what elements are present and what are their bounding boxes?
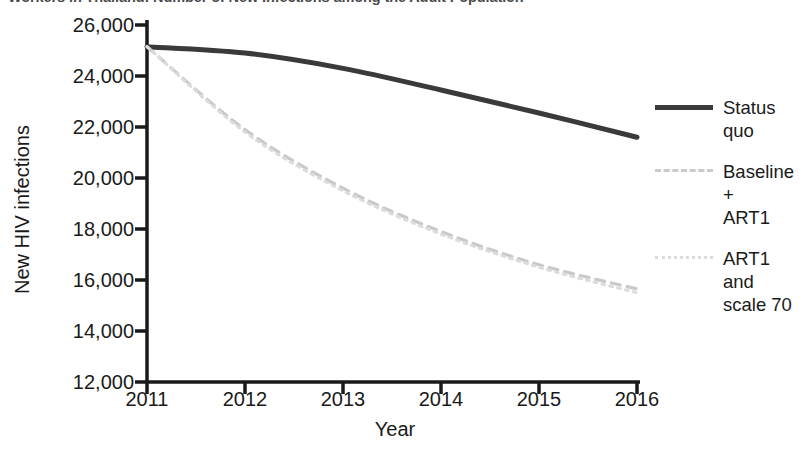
legend-entry[interactable]: ART1 andscale 70 — [655, 247, 805, 316]
series-line — [147, 47, 637, 289]
x-axis-title: Year — [150, 418, 640, 441]
y-tick-label: 20,000 — [24, 168, 134, 188]
legend-entry[interactable]: Statusquo — [655, 96, 805, 142]
x-tick-label: 2016 — [582, 388, 692, 411]
x-tick-label: 2012 — [190, 388, 300, 411]
legend-entry[interactable]: Baseline +ART1 — [655, 160, 805, 229]
legend-label: ART1 andscale 70 — [723, 247, 805, 316]
x-tick-label: 2013 — [288, 388, 398, 411]
y-axis-ticks — [135, 25, 147, 382]
legend-line-swatch-icon — [655, 105, 713, 110]
y-axis-title: New HIV infections — [11, 60, 34, 360]
chart-figure: Workers in Thailand: Number of New Infec… — [0, 0, 808, 451]
y-tick-label: 18,000 — [24, 219, 134, 239]
legend-label: Statusquo — [723, 96, 805, 142]
legend-label-line2: scale 70 — [723, 293, 805, 316]
data-series-group — [147, 47, 637, 293]
x-tick-label: 2014 — [386, 388, 496, 411]
chart-legend: StatusquoBaseline +ART1ART1 andscale 70 — [655, 96, 805, 334]
y-axis-tick-labels: 12,00014,00016,00018,00020,00022,00024,0… — [22, 0, 134, 451]
y-tick-label: 26,000 — [24, 15, 134, 35]
y-tick-label: 22,000 — [24, 117, 134, 137]
legend-label-line2: quo — [723, 119, 805, 142]
legend-label-line2: ART1 — [723, 206, 805, 229]
legend-line-swatch-icon — [655, 256, 713, 259]
x-tick-label: 2015 — [484, 388, 594, 411]
x-tick-label: 2011 — [92, 388, 202, 411]
legend-line-swatch-icon — [655, 169, 713, 172]
y-tick-label: 16,000 — [24, 270, 134, 290]
legend-label: Baseline +ART1 — [723, 160, 805, 229]
y-tick-label: 24,000 — [24, 66, 134, 86]
series-line — [147, 47, 637, 293]
y-tick-label: 14,000 — [24, 321, 134, 341]
series-line — [147, 47, 637, 138]
